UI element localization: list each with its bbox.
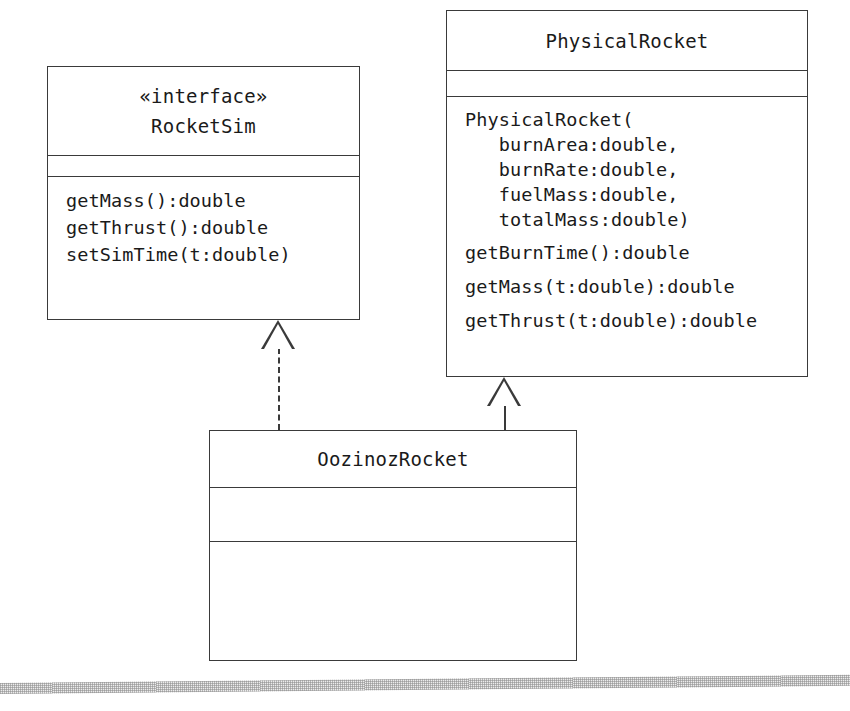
operation-item: setSimTime(t:double) (66, 241, 359, 268)
operations-compartment-oozinozrocket (210, 541, 576, 658)
operation-item: burnRate:double, (465, 157, 807, 182)
operations-compartment-rocketsim: getMass():double getThrust():double setS… (48, 176, 359, 274)
operation-item: getThrust(t:double):double (465, 307, 807, 334)
class-name-oozinozrocket: OozinozRocket (317, 444, 468, 474)
attributes-compartment-physicalrocket (447, 70, 807, 96)
operation-item: getThrust():double (66, 214, 359, 241)
operation-item: getBurnTime():double (465, 239, 807, 266)
class-box-physicalrocket[interactable]: PhysicalRocket PhysicalRocket( burnArea:… (446, 10, 808, 377)
class-name-rocketsim: RocketSim (151, 111, 256, 141)
operation-item: fuelMass:double, (465, 182, 807, 207)
class-name-physicalrocket: PhysicalRocket (546, 26, 709, 56)
class-header-rocketsim: «interface» RocketSim (48, 67, 359, 155)
class-box-oozinozrocket[interactable]: OozinozRocket (209, 430, 577, 661)
attributes-compartment-oozinozrocket (210, 487, 576, 541)
class-stereotype-rocketsim: «interface» (139, 81, 267, 111)
uml-class-diagram-canvas: «interface» RocketSim getMass():double g… (0, 0, 850, 711)
triangle-fill (264, 324, 292, 349)
page-scan-band (0, 675, 850, 694)
operation-item: getMass():double (66, 187, 359, 214)
class-header-oozinozrocket: OozinozRocket (210, 431, 576, 487)
class-box-rocketsim[interactable]: «interface» RocketSim getMass():double g… (47, 66, 360, 320)
operation-item: getMass(t:double):double (465, 273, 807, 300)
operation-item: totalMass:double) (465, 207, 807, 232)
operation-item: PhysicalRocket( (465, 107, 807, 132)
operation-item: burnArea:double, (465, 132, 807, 157)
class-header-physicalrocket: PhysicalRocket (447, 11, 807, 70)
triangle-fill (490, 381, 518, 406)
realization-line-oozinozrocket-to-rocketsim (278, 348, 280, 430)
operations-compartment-physicalrocket: PhysicalRocket( burnArea:double, burnRat… (447, 96, 807, 340)
attributes-compartment-rocketsim (48, 155, 359, 176)
generalization-line-oozinozrocket-to-physicalrocket (504, 405, 506, 431)
